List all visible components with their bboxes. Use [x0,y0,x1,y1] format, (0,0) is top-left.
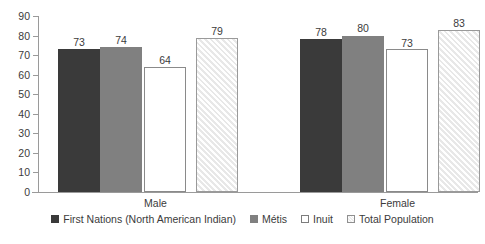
legend-item[interactable]: Inuit [301,214,333,225]
y-axis-tick-mark [33,75,38,76]
legend-swatch-metis [250,215,258,223]
legend-label: Total Population [359,214,434,225]
y-axis-tick-mark [33,153,38,154]
y-axis-tick-label: 0 [24,187,30,198]
y-axis-line [38,16,39,192]
y-axis-tick-label: 90 [18,11,30,22]
bar: 80 [342,36,384,192]
bar-value-label: 80 [357,23,369,34]
chart-legend: First Nations (North American Indian)Mét… [0,214,485,225]
legend-swatch-first-nations [51,215,59,223]
x-axis-category-label: Female [380,198,415,209]
y-axis-tick-label: 10 [18,167,30,178]
bar: 79 [196,38,238,192]
y-axis-tick-mark [33,192,38,193]
legend-swatch-inuit [301,215,309,223]
y-axis-tick-label: 60 [18,69,30,80]
y-axis-tick-label: 20 [18,148,30,159]
bar: 64 [144,67,186,192]
y-axis-tick-mark [33,172,38,173]
y-axis-tick-mark [33,114,38,115]
bar-value-label: 64 [159,55,171,66]
x-axis-category-label: Male [144,198,167,209]
legend-swatch-total-population [347,215,355,223]
bar: 73 [386,49,428,192]
bar-chart: 9080706050403020100 7374647978807383 Mal… [0,0,485,244]
y-axis-tick-label: 30 [18,128,30,139]
bar-value-label: 78 [315,27,327,38]
bar-value-label: 74 [115,35,127,46]
y-axis-tick-label: 70 [18,50,30,61]
y-axis-tick-mark [33,55,38,56]
legend-item[interactable]: Total Population [347,214,434,225]
y-axis-tick-mark [33,94,38,95]
legend-label: Inuit [313,214,333,225]
plot-area: 9080706050403020100 7374647978807383 Mal… [38,16,478,192]
legend-label: Métis [262,214,287,225]
bar-value-label: 73 [401,38,413,49]
bar: 74 [100,47,142,192]
bar-value-label: 79 [211,26,223,37]
bar: 78 [300,39,342,192]
y-axis-tick-mark [33,16,38,17]
y-axis-tick-label: 40 [18,109,30,120]
y-axis-tick-label: 50 [18,89,30,100]
bar: 83 [438,30,480,192]
y-axis-tick-mark [33,36,38,37]
legend-item[interactable]: Métis [250,214,287,225]
legend-item[interactable]: First Nations (North American Indian) [51,214,236,225]
x-axis-baseline [32,192,478,193]
y-axis-tick-mark [33,133,38,134]
bar-value-label: 73 [73,37,85,48]
legend-label: First Nations (North American Indian) [63,214,236,225]
y-axis-tick-label: 80 [18,30,30,41]
bar-value-label: 83 [453,18,465,29]
bar: 73 [58,49,100,192]
